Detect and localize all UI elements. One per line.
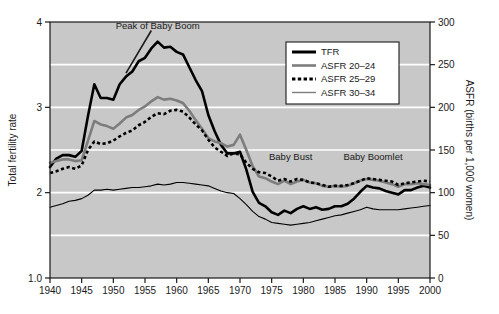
x-tick-label: 1955 bbox=[134, 285, 157, 296]
y2-tick-label: 100 bbox=[438, 187, 455, 198]
y-axis-left-title: Total fertility rate bbox=[7, 113, 18, 186]
x-tick-label: 1965 bbox=[197, 285, 220, 296]
y2-tick-label: 250 bbox=[438, 59, 455, 70]
annotation-label: Baby Bust bbox=[269, 151, 313, 162]
legend-group[interactable]: TFRASFR 20–24ASFR 25–29ASFR 30–34 bbox=[286, 42, 399, 104]
x-tick-label: 1990 bbox=[356, 285, 379, 296]
legend-label[interactable]: TFR bbox=[321, 46, 340, 57]
x-tick-label: 1980 bbox=[292, 285, 315, 296]
x-tick-label: 1995 bbox=[387, 285, 410, 296]
x-tick-label: 2000 bbox=[419, 285, 442, 296]
x-tick-label: 1950 bbox=[102, 285, 125, 296]
chart-figure: 1940194519501955196019651970197519801985… bbox=[0, 0, 499, 314]
x-tick-label: 1940 bbox=[39, 285, 62, 296]
legend-label[interactable]: ASFR 20–24 bbox=[321, 60, 375, 71]
y-tick-label: 2 bbox=[36, 187, 42, 198]
y2-tick-label: 200 bbox=[438, 102, 455, 113]
y-tick-label: 4 bbox=[36, 17, 42, 28]
legend-label[interactable]: ASFR 25–29 bbox=[321, 73, 375, 84]
annotation-label: Peak of Baby Boom bbox=[116, 20, 200, 31]
y-tick-label: 1.0 bbox=[28, 273, 42, 284]
x-tick-label: 1975 bbox=[261, 285, 284, 296]
x-tick-label: 1945 bbox=[71, 285, 94, 296]
x-tick-label: 1970 bbox=[229, 285, 252, 296]
y-tick-label: 3 bbox=[36, 102, 42, 113]
y2-tick-label: 150 bbox=[438, 145, 455, 156]
x-tick-label: 1985 bbox=[324, 285, 347, 296]
annotation-label: Baby Boomlet bbox=[343, 151, 403, 162]
y-axis-right-title: ASFR (births per 1,000 women) bbox=[464, 80, 475, 221]
legend-label[interactable]: ASFR 30–34 bbox=[321, 87, 375, 98]
fertility-rate-line-chart: 1940194519501955196019651970197519801985… bbox=[0, 0, 499, 314]
y2-tick-label: 0 bbox=[438, 273, 444, 284]
x-tick-label: 1960 bbox=[166, 285, 189, 296]
y2-tick-label: 300 bbox=[438, 17, 455, 28]
y2-tick-label: 50 bbox=[438, 230, 450, 241]
